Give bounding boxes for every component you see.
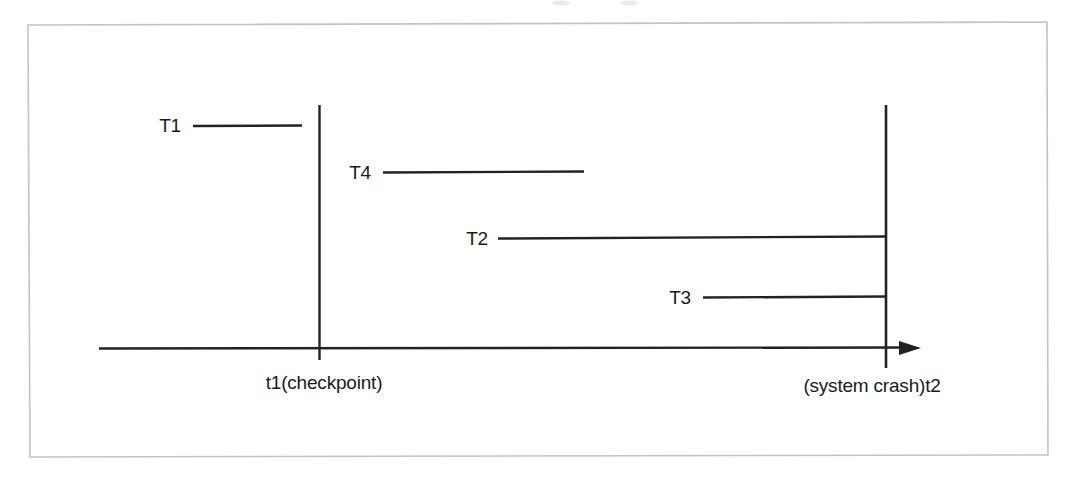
transaction-line-t2 xyxy=(498,237,886,239)
transaction-label-t2: T2 xyxy=(466,228,488,249)
transaction-label-t3: T3 xyxy=(669,287,691,308)
time-axis-arrowhead xyxy=(899,341,921,355)
transaction-label-t4: T4 xyxy=(349,162,371,183)
scan-artifact-group xyxy=(552,1,638,6)
time-axis-group xyxy=(99,341,921,355)
transaction-labels-group: T1 T4 T2 T3 xyxy=(159,115,691,308)
timeline-diagram: T1 T4 T2 T3 t1(checkpoint) (system crash… xyxy=(0,0,1070,477)
diagram-canvas: T1 T4 T2 T3 t1(checkpoint) (system crash… xyxy=(0,0,1070,477)
axis-tick-labels-group: t1(checkpoint) (system crash)t2 xyxy=(266,372,941,396)
transaction-line-t1 xyxy=(193,126,302,127)
transaction-label-t1: T1 xyxy=(159,115,181,136)
transaction-line-t4 xyxy=(383,172,584,173)
transaction-line-t3 xyxy=(703,297,886,298)
transaction-lines-group xyxy=(193,126,886,298)
axis-label-system-crash: (system crash)t2 xyxy=(803,375,940,396)
axis-label-checkpoint: t1(checkpoint) xyxy=(266,372,383,393)
time-axis-line xyxy=(99,348,903,349)
